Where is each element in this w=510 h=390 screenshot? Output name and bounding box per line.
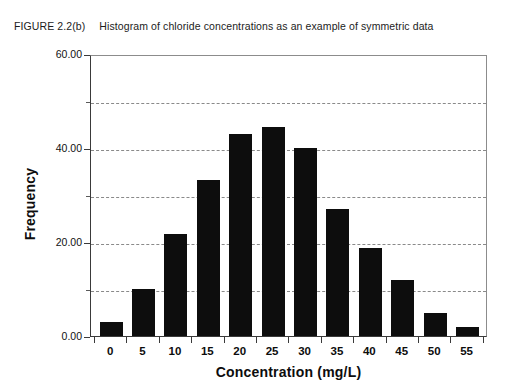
figure-caption: FIGURE 2.2(b)Histogram of chloride conce… bbox=[14, 20, 434, 32]
histogram-bar bbox=[456, 327, 479, 336]
x-tick-label: 0 bbox=[93, 345, 127, 357]
x-tick-mark bbox=[386, 337, 387, 343]
histogram-bar bbox=[326, 209, 349, 336]
x-tick-mark bbox=[321, 337, 322, 343]
x-tick-mark bbox=[353, 337, 354, 343]
histogram-bar bbox=[229, 134, 252, 336]
x-tick-mark bbox=[224, 337, 225, 343]
histogram-bar bbox=[132, 289, 155, 336]
x-tick-mark bbox=[94, 337, 95, 343]
x-tick-label: 20 bbox=[223, 345, 257, 357]
x-tick-label: 30 bbox=[288, 345, 322, 357]
y-tick-label: 40.00 bbox=[36, 142, 82, 154]
histogram-bar bbox=[359, 248, 382, 336]
x-tick-label: 25 bbox=[255, 345, 289, 357]
histogram-bar bbox=[294, 148, 317, 336]
figure-caption-text: Histogram of chloride concentrations as … bbox=[99, 20, 433, 32]
x-tick-mark bbox=[288, 337, 289, 343]
x-axis-label: Concentration (mg/L) bbox=[90, 364, 487, 380]
figure-number: FIGURE 2.2(b) bbox=[14, 20, 85, 32]
x-tick-label: 55 bbox=[450, 345, 484, 357]
y-tick-label: 20.00 bbox=[36, 236, 82, 248]
x-tick-label: 50 bbox=[417, 345, 451, 357]
y-tick-mark bbox=[84, 337, 90, 338]
histogram-bar bbox=[100, 322, 123, 336]
histogram-bar bbox=[262, 127, 285, 336]
x-tick-mark bbox=[483, 337, 484, 343]
histogram-bar bbox=[197, 180, 220, 337]
histogram-bar bbox=[391, 280, 414, 336]
x-tick-mark bbox=[191, 337, 192, 343]
x-tick-mark bbox=[450, 337, 451, 343]
y-tick-label: 0.00 bbox=[36, 330, 82, 342]
plot-area bbox=[90, 55, 487, 337]
x-tick-mark bbox=[126, 337, 127, 343]
x-tick-label: 10 bbox=[158, 345, 192, 357]
x-tick-label: 45 bbox=[385, 345, 419, 357]
histogram-bar bbox=[424, 313, 447, 337]
x-tick-label: 40 bbox=[352, 345, 386, 357]
x-tick-label: 5 bbox=[126, 345, 160, 357]
x-tick-label: 15 bbox=[190, 345, 224, 357]
figure-container: FIGURE 2.2(b)Histogram of chloride conce… bbox=[0, 0, 510, 390]
y-axis-label: Frequency bbox=[22, 134, 38, 274]
x-tick-mark bbox=[418, 337, 419, 343]
x-tick-mark bbox=[159, 337, 160, 343]
x-tick-mark bbox=[256, 337, 257, 343]
x-tick-label: 35 bbox=[320, 345, 354, 357]
bar-series bbox=[91, 56, 486, 336]
y-tick-label: 60.00 bbox=[36, 48, 82, 60]
histogram-bar bbox=[164, 234, 187, 336]
